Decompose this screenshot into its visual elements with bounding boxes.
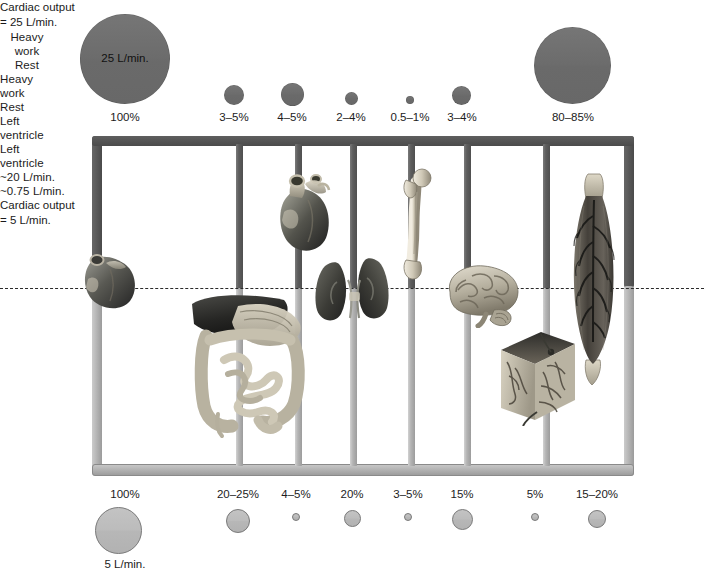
bubble-rest-viscera-percent: 20–25% xyxy=(203,487,273,501)
bubble-heavy-heart xyxy=(224,85,244,105)
bubble-rest-skin-percent: 5% xyxy=(512,487,558,501)
bubble-rest-bone-percent: 3–5% xyxy=(378,487,438,501)
bubble-heavy-muscle-percent: 80–85% xyxy=(535,110,611,124)
rail-right-heavy xyxy=(624,136,634,288)
bubble-rest-brain-percent: 15% xyxy=(432,487,492,501)
vbar-6-heavy xyxy=(543,144,550,290)
bubble-heavy-total-percent: 100% xyxy=(80,110,170,124)
bubble-heavy-viscera xyxy=(281,83,304,106)
bubble-heavy-kidneys xyxy=(345,92,358,105)
bubble-rest-muscle xyxy=(588,510,606,528)
bubble-heavy-kidneys-percent: 2–4% xyxy=(321,110,381,124)
bubble-heavy-brain xyxy=(452,86,471,105)
organ-viscera-gi xyxy=(188,290,316,440)
bubble-rest-kidneys-percent: 20% xyxy=(322,487,382,501)
figure-canvas: 25 L/min. 100% 3–5% 4–5% 2–4% 0.5–1% 3–4… xyxy=(0,0,704,577)
bubble-heavy-brain-percent: 3–4% xyxy=(432,110,492,124)
bubble-rest-heart-percent: 4–5% xyxy=(266,487,326,501)
bubble-heavy-heart-percent: 3–5% xyxy=(204,110,264,124)
organ-heart-column xyxy=(272,172,334,258)
vbar-1-heavy xyxy=(236,144,243,290)
bubble-heavy-total-value: 25 L/min. xyxy=(80,52,170,64)
bubble-rest-brain xyxy=(452,509,473,530)
axis-left-heavy-work: Heavy work xyxy=(0,30,54,58)
bubble-rest-bone xyxy=(404,513,412,521)
rail-right-rest xyxy=(624,286,634,476)
bubble-rest-total-value: 5 L/min. xyxy=(88,557,162,571)
bubble-rest-heart xyxy=(292,513,300,521)
organ-skin-block xyxy=(497,328,579,426)
bubble-rest-muscle-percent: 15–20% xyxy=(562,487,632,501)
bubble-rest-kidneys xyxy=(344,510,361,527)
bubble-rest-total-percent: 100% xyxy=(88,487,162,501)
bubble-heavy-muscle xyxy=(534,27,611,104)
organ-brain xyxy=(438,262,524,328)
vbar-4-rest xyxy=(408,288,415,466)
organ-heart-heavy xyxy=(80,253,140,315)
rail-top-heavy xyxy=(92,136,634,146)
bubble-heavy-bone xyxy=(406,96,414,104)
organ-bone-femur xyxy=(400,168,434,283)
bubble-heavy-viscera-percent: 4–5% xyxy=(262,110,322,124)
bubble-rest-skin xyxy=(531,513,539,521)
bubble-rest-total xyxy=(95,507,142,554)
rail-bottom-rest xyxy=(92,464,634,476)
organ-renal-vessels xyxy=(344,278,366,320)
bubble-rest-viscera xyxy=(226,509,250,533)
axis-left-rest: Rest xyxy=(0,58,54,72)
organ-skeletal-muscle xyxy=(570,172,618,388)
